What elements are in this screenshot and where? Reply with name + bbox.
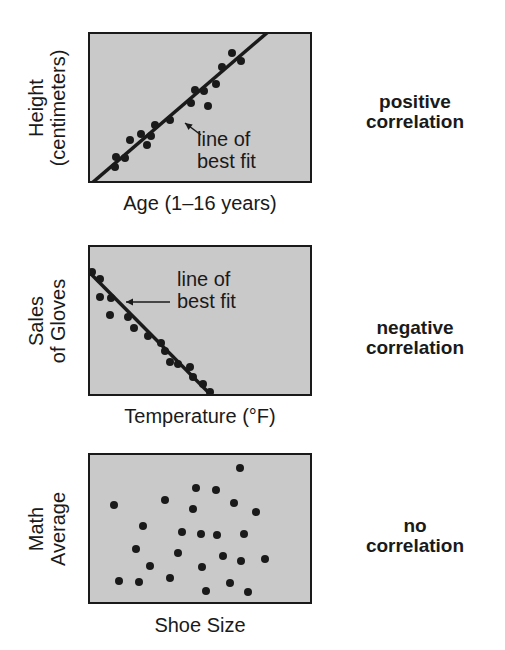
data-point (189, 505, 197, 513)
data-point (178, 528, 186, 536)
data-point (202, 587, 210, 595)
data-point (135, 578, 143, 586)
data-point (197, 530, 205, 538)
data-point (226, 579, 234, 587)
correlation-label-line-1: no (335, 516, 495, 536)
data-point (244, 588, 252, 596)
y-axis-label-line-1: Math (25, 491, 47, 565)
data-point (174, 549, 182, 557)
correlation-label: no correlation (335, 516, 495, 556)
plot-area (88, 453, 312, 604)
data-point (213, 531, 221, 539)
data-point (166, 574, 174, 582)
data-point (110, 501, 118, 509)
data-point (252, 508, 260, 516)
data-point (230, 499, 238, 507)
no-correlation-panel: Math Average Shoe Size no correlation (0, 0, 505, 650)
data-point (236, 464, 244, 472)
data-point (240, 530, 248, 538)
data-point (115, 577, 123, 585)
data-point (212, 486, 220, 494)
x-axis-label: Shoe Size (88, 614, 312, 637)
correlation-label-line-2: correlation (335, 536, 495, 556)
y-axis-label: Math Average (12, 453, 82, 604)
data-point (146, 562, 154, 570)
data-point (237, 557, 245, 565)
data-point (192, 484, 200, 492)
data-point (219, 552, 227, 560)
data-point (139, 522, 147, 530)
data-point (261, 555, 269, 563)
y-axis-label-line-2: Average (47, 491, 69, 565)
data-point (161, 496, 169, 504)
scatter-plot-none (88, 453, 312, 604)
data-point (198, 563, 206, 571)
data-point (132, 545, 140, 553)
